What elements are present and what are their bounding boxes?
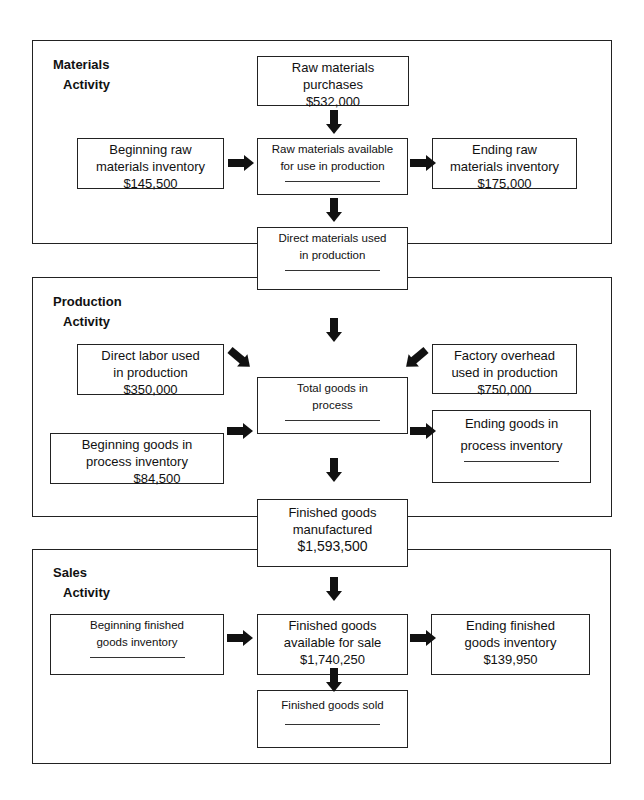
total-goods-in-process-box: Total goods in process	[257, 377, 408, 434]
direct-materials-used-box: Direct materials used in production	[257, 227, 408, 290]
beginning-raw-materials-box: Beginning raw materials inventory $145,5…	[77, 138, 224, 189]
production-activity-title: Production Activity	[53, 292, 122, 332]
beginning-fg-blank-field[interactable]	[90, 657, 185, 658]
beginning-finished-goods-box: Beginning finished goods inventory	[50, 614, 224, 675]
beginning-goods-in-process-box: Beginning goods in process inventory $84…	[50, 433, 224, 484]
materials-activity-title: Materials Activity	[53, 55, 110, 95]
finished-goods-available-box: Finished goods available for sale $1,740…	[257, 614, 408, 675]
finished-goods-manufactured-box: Finished goods manufactured $1,593,500	[257, 499, 408, 567]
total-goods-blank-field[interactable]	[285, 420, 380, 421]
factory-overhead-box: Factory overhead used in production $750…	[432, 344, 577, 394]
direct-materials-blank-field[interactable]	[285, 270, 380, 271]
ending-gip-blank-field[interactable]	[464, 461, 559, 462]
ending-raw-materials-box: Ending raw materials inventory $175,000	[432, 138, 577, 189]
finished-goods-sold-box: Finished goods sold	[257, 690, 408, 748]
raw-materials-available-box: Raw materials available for use in produ…	[257, 138, 408, 195]
sales-activity-title: Sales Activity	[53, 563, 110, 603]
ending-finished-goods-box: Ending finished goods inventory $139,950	[431, 614, 590, 675]
raw-materials-purchases-box: Raw materials purchases $532,000	[257, 56, 409, 106]
raw-available-blank-field[interactable]	[285, 181, 380, 182]
ending-goods-in-process-box: Ending goods in process inventory	[432, 410, 591, 483]
fg-sold-blank-field[interactable]	[285, 724, 380, 725]
direct-labor-box: Direct labor used in production $350,000	[77, 344, 224, 395]
